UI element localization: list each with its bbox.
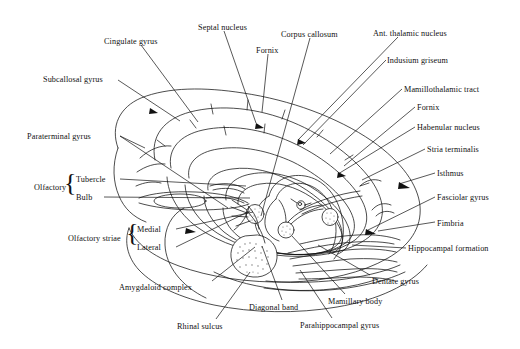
label-cingulate-gyrus: Cingulate gyrus xyxy=(104,38,158,46)
label-stria-terminalis: Stria terminalis xyxy=(427,146,479,154)
label-fornix-right: Fornix xyxy=(417,104,439,112)
label-lateral: Lateral xyxy=(137,244,161,252)
label-dentate-gyrus: Dentate gyrus xyxy=(372,278,419,286)
leader-ant-thalamic-nucleus xyxy=(298,37,398,140)
leader-indusium-griseum xyxy=(303,60,386,145)
label-mamillothalamic-tract: Mamillothalamic tract xyxy=(404,86,479,94)
leader-septal-nucleus xyxy=(224,31,256,123)
label-fornix-top: Fornix xyxy=(256,47,278,55)
leader-isthmus xyxy=(399,173,435,184)
leader-paraterminal-gyrus-a xyxy=(120,136,145,148)
leader-arrowheads xyxy=(149,108,410,235)
cingulate-gyrus-rings xyxy=(154,108,382,256)
label-fasciolar-gyrus: Fasciolar gyrus xyxy=(437,194,489,202)
leader-fimbria xyxy=(378,222,435,231)
mamillothalamic-tract xyxy=(288,205,323,224)
leader-medial-stria xyxy=(176,212,253,229)
label-indusium-griseum: Indusium griseum xyxy=(387,57,448,65)
amygdaloid-complex xyxy=(231,235,277,277)
label-amygdaloid-complex: Amygdaloid complex xyxy=(119,284,192,292)
label-medial: Medial xyxy=(137,226,161,234)
anterior-thalamic-nucleus xyxy=(322,209,338,226)
olfactory-brace: { xyxy=(64,170,76,196)
leader-cingulate-gyrus xyxy=(141,45,198,122)
label-subcallosal-gyrus: Subcallosal gyrus xyxy=(43,76,103,84)
leader-subcallosal-gyrus xyxy=(118,80,180,121)
label-ant-thalamic-nucleus: Ant. thalamic nucleus xyxy=(373,30,447,38)
label-rhinal-sulcus: Rhinal sulcus xyxy=(177,323,223,331)
leader-hippocampal-formation xyxy=(352,245,406,248)
leader-fasciolar-gyrus xyxy=(368,197,435,230)
label-paraterminal-gyrus: Paraterminal gyrus xyxy=(27,133,91,141)
label-tubercle: Tubercle xyxy=(76,176,106,184)
label-habenular-nucleus: Habenular nucleus xyxy=(417,124,480,132)
label-diagonal-band: Diagonal band xyxy=(249,304,298,312)
label-olfactory-striae-group: Olfactory striae xyxy=(68,235,121,243)
fasciolar-gyrus-marks xyxy=(372,204,394,216)
label-isthmus: Isthmus xyxy=(437,170,464,178)
label-hippocampal-formation: Hippocampal formation xyxy=(408,245,489,253)
label-bulb: Bulb xyxy=(76,194,92,202)
leader-mamillothalamic-tract xyxy=(330,89,402,154)
leader-habenular-nucleus xyxy=(338,127,415,174)
leader-bulb xyxy=(104,197,250,198)
label-olfactory-group: Olfactory xyxy=(34,184,66,192)
label-septal-nucleus: Septal nucleus xyxy=(198,24,247,32)
leader-fornix-right xyxy=(344,107,415,166)
figure-canvas: Cingulate gyrus Septal nucleus Corpus ca… xyxy=(0,0,520,349)
mamillary-body xyxy=(278,200,294,238)
leader-fornix-top xyxy=(262,54,268,112)
label-fimbria: Fimbria xyxy=(437,220,464,228)
leader-lines xyxy=(104,31,435,319)
label-parahippocampal-gyrus: Parahippocampal gyrus xyxy=(300,322,379,330)
label-corpus-callosum: Corpus callosum xyxy=(281,31,338,39)
label-mamillary-body: Mamillary body xyxy=(328,298,382,306)
